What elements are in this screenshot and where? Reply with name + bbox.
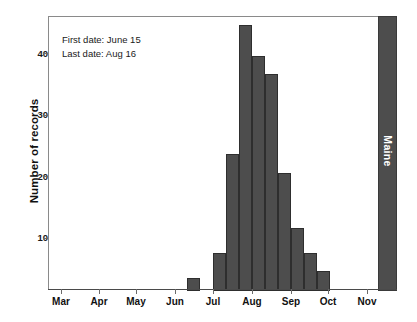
bar-1	[213, 253, 226, 291]
y-tick-label-20: 20	[8, 171, 48, 182]
x-tick-mark-apr	[99, 289, 100, 294]
histogram-figure: Number of records 10 20 30 40 Maine	[0, 0, 417, 322]
x-axis-line	[48, 289, 397, 290]
bar-3	[239, 25, 252, 291]
bar-8	[304, 253, 317, 291]
x-tick-mark-may	[136, 289, 137, 294]
y-tick-label-10: 10	[8, 232, 48, 243]
x-tick-mark-mar	[61, 289, 62, 294]
x-tick-mark-nov	[367, 289, 368, 294]
maine-highlight-bar: Maine	[378, 16, 397, 291]
bar-6	[278, 173, 291, 291]
maine-bar-label: Maine	[382, 128, 394, 174]
x-tick-mark-jun	[175, 289, 176, 294]
x-tick-mark-jul	[213, 289, 214, 294]
x-tick-mark-sep	[291, 289, 292, 294]
bar-4	[252, 56, 265, 291]
y-tick-label-30: 30	[8, 109, 48, 120]
bar-5	[265, 74, 278, 291]
y-tick-label-40: 40	[8, 48, 48, 59]
x-tick-mark-oct	[328, 289, 329, 294]
y-axis-ticks: 10 20 30 40	[0, 0, 48, 322]
x-tick-label-nov: Nov	[344, 296, 390, 307]
bar-2	[226, 154, 239, 291]
x-tick-mark-aug	[252, 289, 253, 294]
annotation-first-date: First date: June 15	[62, 33, 141, 47]
bar-7	[291, 228, 304, 291]
annotation-last-date: Last date: Aug 16	[62, 47, 141, 61]
date-range-annotation: First date: June 15 Last date: Aug 16	[62, 33, 141, 60]
